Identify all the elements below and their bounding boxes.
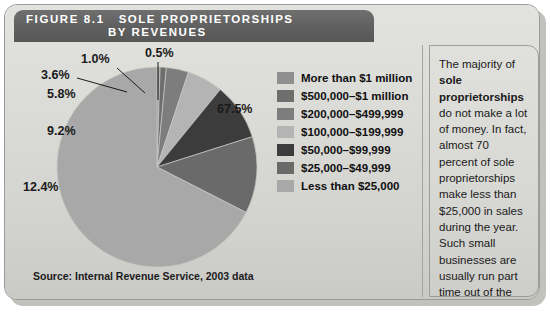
figure-container: FIGURE 8.1 SOLE PROPRIETORSHIPS BY REVEN… <box>0 0 550 312</box>
legend-item-label: Less than $25,000 <box>301 180 399 192</box>
figure-title-line-1: SOLE PROPRIETORSHIPS <box>119 13 294 25</box>
pie-percentage-label: 3.6% <box>41 68 70 82</box>
sidenote-text: The majority of sole proprietorships do … <box>439 56 529 300</box>
sidenote-panel: The majority of sole proprietorships do … <box>429 45 539 297</box>
legend-item-label: More than $1 million <box>301 72 412 84</box>
legend-color-swatch <box>277 144 294 156</box>
legend-color-swatch <box>277 126 294 138</box>
legend-item: More than $1 million <box>277 69 412 87</box>
figure-title-line-2: BY REVENUES <box>108 26 374 38</box>
source-note: Source: Internal Revenue Service, 2003 d… <box>33 270 254 282</box>
sidenote-text-before: The majority of <box>439 58 515 70</box>
pie-percentage-label: 67.5% <box>217 102 252 116</box>
figure-header-line-1: FIGURE 8.1 SOLE PROPRIETORSHIPS <box>14 13 374 25</box>
pie-percentage-label: 9.2% <box>47 124 76 138</box>
legend-item: Less than $25,000 <box>277 177 412 195</box>
legend-item-label: $500,000–$1 million <box>301 90 408 102</box>
legend-item: $500,000–$1 million <box>277 87 412 105</box>
legend-color-swatch <box>277 108 294 120</box>
vertical-divider <box>422 45 423 297</box>
sidenote-bold-term: sole proprietorships <box>439 74 524 102</box>
pie-percentage-label: 5.8% <box>47 87 76 101</box>
pie-percentage-label: 1.0% <box>81 52 110 66</box>
figure-header-bar: FIGURE 8.1 SOLE PROPRIETORSHIPS BY REVEN… <box>14 10 374 42</box>
chart-legend: More than $1 million$500,000–$1 million$… <box>277 69 412 195</box>
legend-item-label: $100,000–$199,999 <box>301 126 403 138</box>
legend-color-swatch <box>277 162 294 174</box>
legend-item: $25,000–$49,999 <box>277 159 412 177</box>
legend-color-swatch <box>277 72 294 84</box>
pie-percentage-label: 0.5% <box>145 46 174 60</box>
legend-item: $200,000–$499,999 <box>277 105 412 123</box>
legend-item-label: $50,000–$99,999 <box>301 144 391 156</box>
sidenote-text-after: do not make a lot of money. In fact, alm… <box>439 107 527 300</box>
legend-color-swatch <box>277 180 294 192</box>
legend-item: $50,000–$99,999 <box>277 141 412 159</box>
legend-item-label: $25,000–$49,999 <box>301 162 391 174</box>
figure-number: FIGURE 8.1 <box>26 13 105 25</box>
pie-slice-group <box>57 67 257 267</box>
pie-percentage-label: 12.4% <box>23 180 58 194</box>
figure-panel: FIGURE 8.1 SOLE PROPRIETORSHIPS BY REVEN… <box>4 4 540 300</box>
legend-color-swatch <box>277 90 294 102</box>
legend-item-label: $200,000–$499,999 <box>301 108 403 120</box>
legend-item: $100,000–$199,999 <box>277 123 412 141</box>
